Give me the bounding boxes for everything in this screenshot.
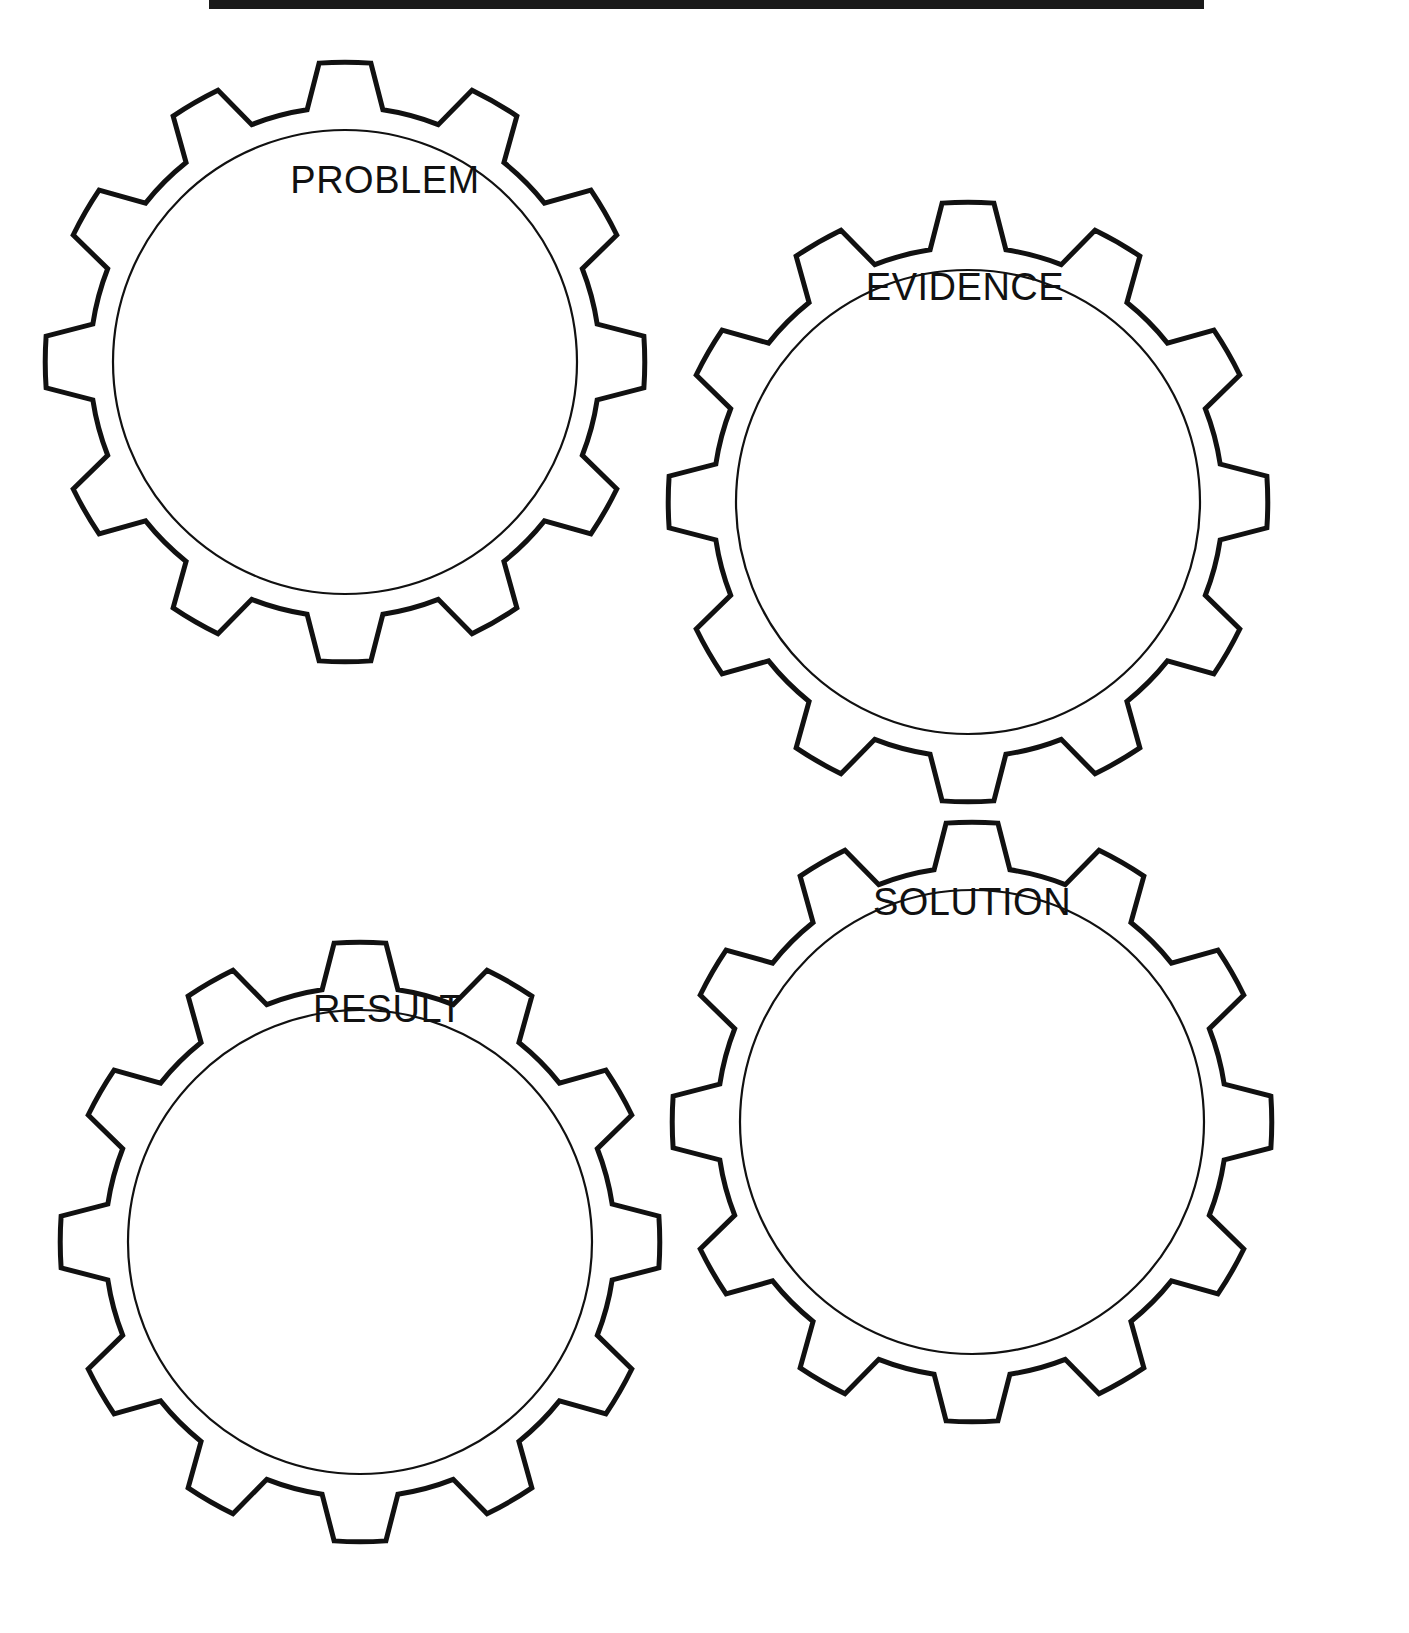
gear-result[interactable]: RESULT bbox=[60, 942, 660, 1542]
gear-problem[interactable]: PROBLEM bbox=[45, 62, 645, 662]
gear-solution-label: SOLUTION bbox=[873, 881, 1071, 923]
worksheet-canvas: PROBLEM EVIDENCE RESULT SOLUTION bbox=[0, 0, 1409, 1633]
gear-problem-label: PROBLEM bbox=[290, 159, 479, 201]
gear-diagram: PROBLEM EVIDENCE RESULT SOLUTION bbox=[0, 0, 1409, 1633]
gear-solution[interactable]: SOLUTION bbox=[672, 822, 1272, 1422]
gear-result-outline[interactable] bbox=[60, 942, 660, 1542]
gear-problem-outline[interactable] bbox=[45, 62, 645, 662]
gear-evidence[interactable]: EVIDENCE bbox=[668, 202, 1268, 802]
gear-evidence-label: EVIDENCE bbox=[866, 266, 1064, 308]
gear-result-label: RESULT bbox=[313, 988, 463, 1030]
